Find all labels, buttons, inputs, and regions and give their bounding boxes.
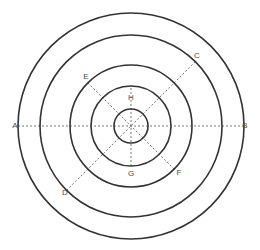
point-label-f: F <box>177 169 182 177</box>
point-label-d: D <box>62 189 68 197</box>
point-label-b: B <box>242 122 247 130</box>
concentric-circles-figure <box>0 0 260 250</box>
point-label-a: A <box>12 122 17 130</box>
point-label-g: G <box>128 170 134 178</box>
diagram-canvas: ABCDEFGH <box>0 0 260 250</box>
point-label-h: H <box>128 94 134 102</box>
point-label-c: C <box>194 52 200 60</box>
point-label-e: E <box>83 73 88 81</box>
